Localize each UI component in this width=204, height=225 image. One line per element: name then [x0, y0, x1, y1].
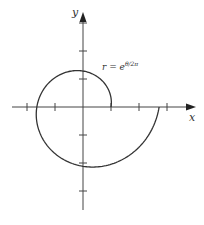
equation-label: r = eθ/2π	[102, 60, 138, 72]
equation-exponent: θ/2π	[125, 60, 138, 67]
x-axis-arrow-icon	[186, 104, 196, 111]
spiral-curve	[36, 71, 159, 167]
y-axis-label: y	[72, 6, 78, 19]
y-axis-arrow-icon	[80, 12, 87, 22]
x-axis-label: x	[189, 111, 195, 124]
polar-spiral-chart	[0, 0, 204, 225]
equation-base: r = e	[102, 62, 125, 72]
